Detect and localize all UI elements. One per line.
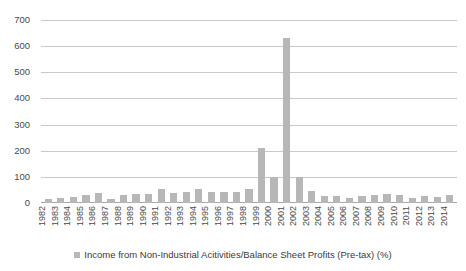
bar [170, 193, 177, 203]
bar-slot [42, 20, 55, 203]
bar-slot [130, 20, 143, 203]
bar [220, 192, 227, 203]
bar-slot [55, 20, 68, 203]
bar [358, 196, 365, 203]
x-axis-tick-label: 2001 [277, 206, 286, 226]
bar-slot [393, 20, 406, 203]
bar [158, 189, 165, 203]
bar [434, 197, 441, 203]
x-axis: 1982198319841985198619871988198919901991… [41, 204, 457, 246]
x-axis-tick-label: 2007 [352, 206, 361, 226]
bar-slot [155, 20, 168, 203]
x-axis-tick-label: 2004 [314, 206, 323, 226]
x-axis-tick-label: 2000 [264, 206, 273, 226]
legend-swatch-icon [74, 252, 80, 258]
bar [132, 194, 139, 203]
bar [396, 195, 403, 203]
x-axis-tick-label: 1982 [38, 206, 47, 226]
bar-slot [193, 20, 206, 203]
x-axis-tick: 2014 [444, 204, 457, 246]
y-axis-tick-label: 0 [25, 198, 30, 208]
x-axis-tick-label: 2002 [289, 206, 298, 226]
x-axis-tick-label: 2010 [390, 206, 399, 226]
x-axis-tick-label: 1988 [114, 206, 123, 226]
bar [321, 196, 328, 203]
x-axis-tick-label: 1987 [101, 206, 110, 226]
bar [208, 192, 215, 203]
bar-slot [343, 20, 356, 203]
bar-slot [444, 20, 457, 203]
x-axis-tick-label: 1995 [201, 206, 210, 226]
bar [120, 195, 127, 203]
bar [95, 193, 102, 203]
x-axis-tick-label: 1990 [139, 206, 148, 226]
bar-slot [268, 20, 281, 203]
x-axis-tick-label: 1985 [76, 206, 85, 226]
bar-slot [105, 20, 118, 203]
plot-area [41, 20, 457, 203]
bar [346, 198, 353, 203]
bar [258, 148, 265, 203]
y-axis-tick-label: 400 [14, 94, 30, 104]
x-axis-tick-label: 2014 [440, 206, 449, 226]
bar-slot [67, 20, 80, 203]
bar [308, 191, 315, 203]
bar-slot [431, 20, 444, 203]
x-axis-tick-label: 1997 [226, 206, 235, 226]
x-axis-tick-label: 1991 [151, 206, 160, 226]
x-axis-tick-label: 1993 [176, 206, 185, 226]
bar-slot [356, 20, 369, 203]
bar [233, 192, 240, 204]
x-axis-tick-label: 2006 [339, 206, 348, 226]
bar [183, 192, 190, 203]
bar-slot [167, 20, 180, 203]
bar-chart: 0100200300400500600700 19821983198419851… [0, 0, 466, 271]
bar [45, 199, 52, 203]
x-axis-tick-label: 1986 [88, 206, 97, 226]
x-axis-tick-label: 2003 [302, 206, 311, 226]
bar [333, 196, 340, 203]
bar-slot [92, 20, 105, 203]
bar-slot [293, 20, 306, 203]
x-axis-tick-label: 1983 [51, 206, 60, 226]
y-axis-tick-label: 100 [14, 172, 30, 182]
y-axis-tick-label: 300 [14, 120, 30, 130]
bar-slot [243, 20, 256, 203]
bar [107, 199, 114, 203]
bar-slot [230, 20, 243, 203]
bar [195, 189, 202, 203]
bar-slot [305, 20, 318, 203]
bar-slot [80, 20, 93, 203]
bar-slot [381, 20, 394, 203]
y-axis-tick-label: 500 [14, 68, 30, 78]
bar-slot [418, 20, 431, 203]
x-axis-tick-label: 1996 [214, 206, 223, 226]
x-axis-tick-label: 1984 [63, 206, 72, 226]
bar-slot [205, 20, 218, 203]
x-axis-tick-label: 2013 [427, 206, 436, 226]
bar-slot [318, 20, 331, 203]
bar-slot [280, 20, 293, 203]
bar [296, 177, 303, 203]
bar [270, 177, 277, 203]
x-axis-tick-label: 1999 [252, 206, 261, 226]
bar-series [41, 20, 457, 203]
x-axis-tick-label: 2005 [327, 206, 336, 226]
bar [57, 198, 64, 203]
x-axis-tick-label: 1994 [189, 206, 198, 226]
x-axis-tick-label: 2008 [364, 206, 373, 226]
x-axis-tick-label: 2012 [415, 206, 424, 226]
x-axis-tick-label: 1989 [126, 206, 135, 226]
bar-slot [180, 20, 193, 203]
bar [383, 194, 390, 203]
bar-slot [368, 20, 381, 203]
y-axis-tick-label: 700 [14, 15, 30, 25]
bar [70, 197, 77, 203]
x-axis-tick-label: 2009 [377, 206, 386, 226]
chart-legend: Income from Non-Industrial Acitivities/B… [0, 250, 466, 260]
x-axis-tick-label: 2011 [402, 206, 411, 225]
bar-slot [331, 20, 344, 203]
bar [371, 195, 378, 203]
x-axis-tick-label: 1992 [164, 206, 173, 226]
bar [421, 196, 428, 203]
